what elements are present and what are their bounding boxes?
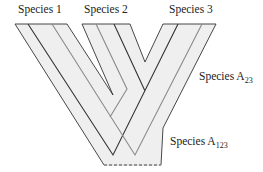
species-3-label: Species 3 [169,3,213,15]
species-tree-diagram: Species 1 Species 2 Species 3 Species A2… [0,0,263,172]
species-1-label: Species 1 [18,3,62,15]
ancestor-a23-label: Species A23 [199,70,253,85]
ancestor-a123-label: Species A123 [170,135,228,150]
species-2-label: Species 2 [84,3,128,15]
